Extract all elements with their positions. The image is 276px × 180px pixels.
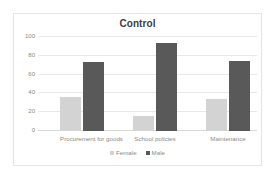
chart-title: Control	[14, 18, 261, 29]
legend-swatch-male	[146, 151, 150, 155]
category-label-0: Procurement for goods	[60, 136, 104, 142]
y-tick-label-60: 60	[28, 71, 35, 77]
bar-female-1[interactable]	[133, 116, 154, 131]
bar-male-0[interactable]	[83, 62, 104, 131]
chart-legend: Female Male	[14, 150, 261, 156]
legend-item-female[interactable]: Female	[110, 150, 137, 156]
bar-male-2[interactable]	[229, 61, 250, 132]
chart-container: Control 100 80 60 40 20 0 Procurement fo…	[13, 13, 262, 166]
y-tick-label-100: 100	[25, 33, 35, 39]
bar-male-1[interactable]	[156, 43, 177, 131]
y-tick-label-20: 20	[28, 108, 35, 114]
bar-group-0: Procurement for goods	[60, 37, 104, 131]
bar-female-0[interactable]	[60, 97, 81, 131]
y-tick-label-80: 80	[28, 52, 35, 58]
legend-item-male[interactable]: Male	[146, 150, 165, 156]
category-label-2: Maintenance	[206, 136, 250, 142]
y-tick-label-40: 40	[28, 89, 35, 95]
bar-female-2[interactable]	[206, 99, 227, 131]
plot-area: 100 80 60 40 20 0 Procurement for goods …	[38, 37, 257, 131]
legend-label-female: Female	[116, 150, 137, 156]
legend-label-male: Male	[152, 150, 165, 156]
category-label-1: School policies	[133, 136, 177, 142]
legend-swatch-female	[110, 151, 114, 155]
y-tick-label-0: 0	[32, 127, 35, 133]
bar-group-1: School policies	[133, 37, 177, 131]
bar-group-2: Maintenance	[206, 37, 250, 131]
